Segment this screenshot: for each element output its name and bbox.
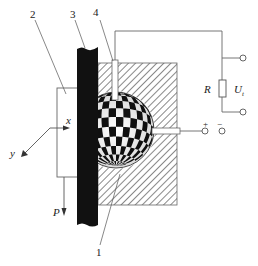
plus-sign: + — [203, 119, 208, 129]
callout-4: 4 — [93, 6, 99, 18]
callout-3: 3 — [70, 8, 76, 20]
y-axis-label: y — [9, 147, 15, 159]
minus-sign: − — [217, 119, 222, 129]
side-contact-probe — [152, 128, 225, 134]
sensor-diagram: 2 3 4 1 x y P R U t + − — [0, 0, 258, 266]
top-contact-probe — [112, 31, 118, 100]
output-terminal-top — [240, 55, 246, 61]
object-plate — [57, 88, 78, 177]
resistor-icon — [219, 80, 226, 97]
black-bar — [77, 47, 98, 227]
callout-2: 2 — [30, 8, 36, 20]
callout-1: 1 — [96, 246, 102, 258]
voltage-subscript: t — [242, 90, 245, 98]
output-terminal-bottom — [240, 109, 246, 115]
force-label: P — [52, 206, 60, 218]
force-arrow-icon — [62, 208, 67, 216]
x-axis-label: x — [65, 114, 71, 126]
resistor-label: R — [203, 83, 211, 95]
